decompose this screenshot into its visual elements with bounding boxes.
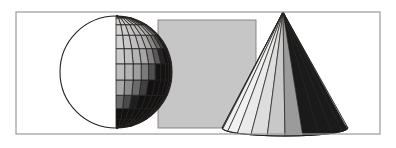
illustration-canvas [0, 0, 396, 148]
sphere-mesh-facet [116, 95, 124, 108]
sphere-mesh-facet [125, 64, 133, 80]
sphere-mesh-facet [161, 64, 166, 80]
shapes-svg [0, 0, 396, 148]
sphere-mesh-facet [116, 64, 125, 80]
sphere-mesh-facet [149, 64, 156, 80]
sphere-mesh-facet [124, 80, 133, 95]
sphere-mesh-facet [155, 64, 161, 80]
sphere-mesh-facet [133, 64, 141, 80]
sphere-mesh-facet [116, 35, 124, 48]
sphere-mesh-facet [165, 64, 168, 80]
sphere-mesh-facet [116, 49, 125, 64]
sphere-mesh-facet [141, 64, 148, 80]
sphere-mesh-facet [124, 49, 133, 64]
sphere-mesh-facet [116, 80, 125, 95]
